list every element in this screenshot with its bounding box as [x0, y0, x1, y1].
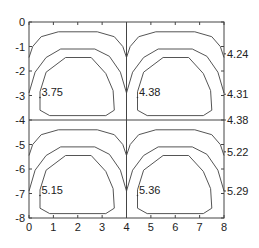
contour-label: 5.15 [41, 184, 62, 196]
y-tick-label: 0 [19, 16, 25, 28]
x-tick-label: 0 [26, 221, 32, 233]
contour-labels: 3.754.385.155.36 [39, 86, 160, 197]
x-tick-label: 3 [99, 221, 105, 233]
y-tick-label: -4 [15, 114, 25, 126]
right-contour-label: 4.31 [227, 88, 248, 100]
x-tick-label: 7 [197, 221, 203, 233]
right-contour-label: 5.29 [227, 185, 248, 197]
contour-label: 3.75 [41, 86, 62, 98]
contour-outer [29, 32, 127, 58]
y-tick-labels: 0-1-2-3-4-5-6-7-8 [15, 16, 25, 224]
right-contour-label: 5.22 [227, 146, 248, 158]
right-contour-labels: 4.244.314.385.225.29 [224, 48, 248, 197]
x-tick-label: 4 [123, 221, 129, 233]
y-tick-label: -8 [15, 212, 25, 224]
y-tick-label: -3 [15, 90, 25, 102]
contour-outer [127, 130, 225, 156]
y-tick-label: -6 [15, 163, 25, 175]
contour-outer [127, 32, 225, 58]
right-contour-label: 4.24 [227, 48, 248, 60]
x-tick-labels: 012345678 [26, 221, 227, 233]
right-contour-label: 4.38 [227, 114, 248, 126]
contour-label: 5.36 [139, 184, 160, 196]
contour-label: 4.38 [139, 86, 160, 98]
contour-outer [29, 130, 127, 156]
x-tick-label: 1 [50, 221, 56, 233]
y-tick-label: -5 [15, 139, 25, 151]
x-tick-label: 2 [75, 221, 81, 233]
x-tick-label: 6 [172, 221, 178, 233]
y-tick-label: -1 [15, 41, 25, 53]
x-tick-label: 8 [221, 221, 227, 233]
y-tick-label: -2 [15, 65, 25, 77]
x-tick-label: 5 [148, 221, 154, 233]
y-tick-label: -7 [15, 188, 25, 200]
contour-chart: 012345678 0-1-2-3-4-5-6-7-8 3.754.385.15… [0, 0, 259, 248]
